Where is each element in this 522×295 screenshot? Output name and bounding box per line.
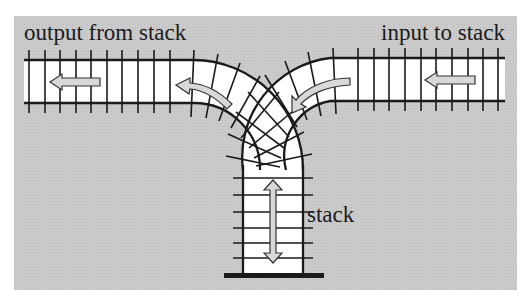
- stack-railway-diagram: output from stack input to stack stack: [0, 0, 522, 295]
- stack-label: stack: [307, 202, 355, 227]
- stack-base: [224, 273, 324, 278]
- input-label: input to stack: [381, 20, 505, 45]
- output-label: output from stack: [24, 20, 187, 45]
